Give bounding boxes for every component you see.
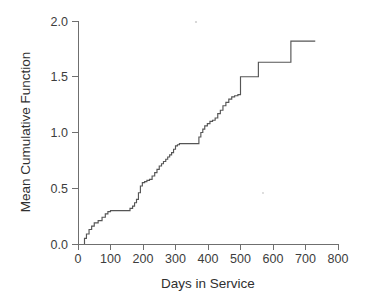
y-axis-title: Mean Cumulative Function xyxy=(18,52,33,213)
chart-container: 2.0 1.5 1.0 0.5 0.0 0 100 200 300 400 50… xyxy=(0,0,368,304)
x-tick-label: 600 xyxy=(263,252,284,266)
x-tick-label: 500 xyxy=(230,252,251,266)
y-tick-label: 0.0 xyxy=(51,238,68,252)
x-tick-label: 800 xyxy=(328,252,349,266)
y-tick-label: 1.0 xyxy=(51,126,68,140)
x-axis-tick-labels: 0 100 200 300 400 500 600 700 800 xyxy=(75,252,349,266)
scan-speck xyxy=(262,192,264,194)
x-tick-label: 400 xyxy=(198,252,219,266)
x-tick-label: 300 xyxy=(165,252,186,266)
y-tick-label: 2.0 xyxy=(51,15,68,29)
x-axis-title: Days in Service xyxy=(161,276,255,291)
y-tick-label: 1.5 xyxy=(51,70,68,84)
x-tick-label: 700 xyxy=(295,252,316,266)
x-tick-label: 200 xyxy=(133,252,154,266)
x-tick-label: 100 xyxy=(100,252,121,266)
scan-speck xyxy=(195,21,197,23)
y-tick-label: 0.5 xyxy=(51,182,68,196)
mean-cumulative-function-chart: 2.0 1.5 1.0 0.5 0.0 0 100 200 300 400 50… xyxy=(0,0,368,304)
x-tick-label: 0 xyxy=(75,252,82,266)
